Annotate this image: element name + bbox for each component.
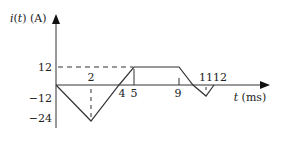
x-tick-2: 2 [88,71,95,84]
x-axis-label: t (ms) [234,91,267,104]
y-axis-label: i(t) (A) [10,12,47,25]
current-waveform-chart: i(t) (A) 12 −12 −24 2 4 5 9 11 12 t (ms) [0,0,281,143]
x-axis-arrow-icon [260,81,270,89]
x-tick-11: 11 [199,71,213,84]
y-tick-neg24: −24 [29,112,52,125]
y-tick-12: 12 [38,61,52,74]
x-tick-4: 4 [119,87,126,100]
y-axis-arrow-icon [52,14,60,24]
x-tick-9: 9 [175,87,182,100]
x-tick-5: 5 [131,87,138,100]
y-tick-neg12: −12 [29,92,52,105]
x-tick-12: 12 [213,71,227,84]
